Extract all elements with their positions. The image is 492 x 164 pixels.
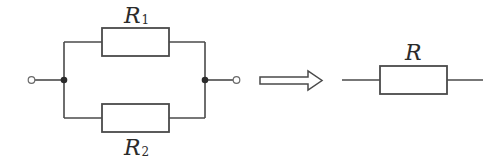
- resistor-r2: [102, 104, 169, 132]
- left-junction-dot: [61, 77, 68, 84]
- resistor-r1: [102, 28, 169, 56]
- circuit-diagram: R1 R2 R: [0, 0, 492, 164]
- label-r1: R1: [123, 3, 149, 28]
- hollow-right-arrow-icon: [260, 71, 322, 90]
- parallel-circuit: R1 R2: [28, 3, 240, 160]
- right-terminal: [233, 77, 240, 84]
- left-terminal: [28, 77, 35, 84]
- resistor-r: [380, 66, 447, 94]
- label-r: R: [404, 40, 422, 65]
- label-r2: R2: [123, 135, 149, 160]
- right-junction-dot: [202, 77, 209, 84]
- equivalent-circuit: R: [342, 40, 483, 94]
